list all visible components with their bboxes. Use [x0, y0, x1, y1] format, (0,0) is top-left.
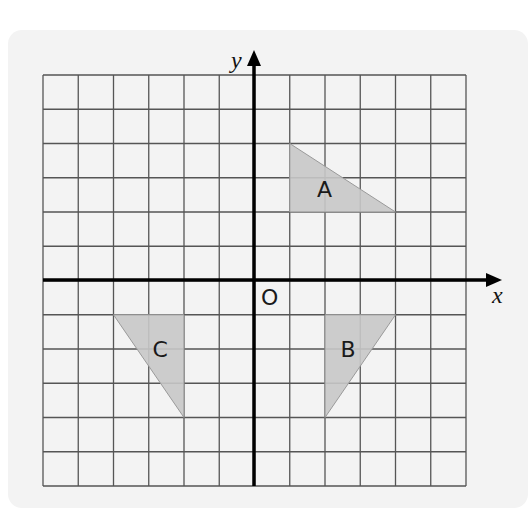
triangle-label: B	[341, 337, 356, 362]
y-axis-label: y	[229, 47, 242, 73]
y-axis-arrow-icon	[247, 50, 261, 66]
origin-label: O	[261, 285, 278, 310]
triangle-label: A	[317, 177, 332, 202]
x-axis-label: x	[491, 282, 503, 308]
triangle-label: C	[153, 337, 168, 362]
y-axis	[247, 50, 261, 486]
